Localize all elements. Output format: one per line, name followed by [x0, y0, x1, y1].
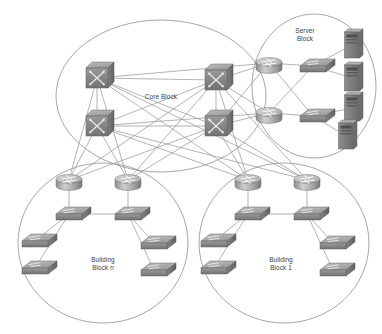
zone-label-server-block: ServerBlock [295, 27, 315, 42]
core-switch-top-right-icon[interactable] [205, 64, 233, 90]
network-devices [22, 29, 363, 276]
link-core-sw-br-to-b1-rtr-r [216, 126, 307, 180]
server-tower-4-icon[interactable] [339, 120, 358, 149]
server-block-switch-bottom-icon[interactable] [300, 109, 335, 122]
link-core-sw-bl-to-b1-rtr-r [97, 126, 307, 180]
bb1-router-left-icon[interactable] [235, 175, 261, 191]
bbn-access-switch-3-icon[interactable] [141, 236, 176, 249]
bbn-dist-switch-left-icon[interactable] [56, 207, 91, 220]
bb1-router-right-icon[interactable] [294, 175, 320, 191]
bb1-access-switch-1-icon[interactable] [201, 234, 236, 247]
server-tower-2-icon[interactable] [345, 62, 364, 91]
bb1-dist-switch-right-icon[interactable] [294, 207, 329, 220]
server-tower-1-icon[interactable] [345, 29, 364, 58]
zone-label-building-block-1: BuildingBlock 1 [269, 256, 293, 271]
bb1-access-switch-3-icon[interactable] [320, 236, 355, 249]
zone-label-core-block: Core Block [145, 93, 178, 100]
core-switch-bottom-right-icon[interactable] [205, 110, 233, 136]
bbn-router-left-icon[interactable] [56, 175, 82, 191]
link-core-sw-tl-to-b1-rtr-r [97, 78, 307, 180]
bbn-access-switch-4-icon[interactable] [141, 263, 176, 276]
core-switch-top-left-icon[interactable] [86, 62, 114, 88]
core-switch-bottom-left-icon[interactable] [86, 110, 114, 136]
server-block-router-top-icon[interactable] [256, 58, 282, 74]
network-diagram-canvas: Core BlockServerBlockBuildingBlock nBuil… [0, 0, 382, 334]
bbn-access-switch-1-icon[interactable] [22, 234, 57, 247]
bbn-router-right-icon[interactable] [115, 175, 141, 191]
link-core-sw-tl-to-srv-rtr-1 [97, 63, 269, 78]
bbn-dist-switch-right-icon[interactable] [115, 207, 150, 220]
zone-label-building-block-n: BuildingBlock n [91, 256, 115, 271]
server-block-router-bottom-icon[interactable] [256, 108, 282, 124]
bb1-dist-switch-left-icon[interactable] [235, 207, 270, 220]
link-core-sw-tl-to-core-sw-tr [97, 78, 216, 80]
topology-svg: Core BlockServerBlockBuildingBlock nBuil… [0, 0, 382, 334]
bb1-access-switch-4-icon[interactable] [320, 263, 355, 276]
server-block-switch-top-icon[interactable] [300, 59, 335, 72]
bb1-access-switch-2-icon[interactable] [201, 261, 236, 274]
server-tower-3-icon[interactable] [345, 92, 364, 121]
bbn-access-switch-2-icon[interactable] [22, 261, 57, 274]
